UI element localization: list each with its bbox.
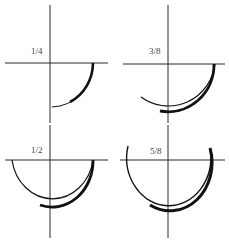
panel-half-circle: 1/2: [5, 125, 108, 238]
curved-needle-arc: [141, 64, 215, 106]
panel-label: 1/2: [31, 145, 43, 155]
panel-label: 3/8: [149, 46, 161, 56]
curved-needle-arc-thick: [40, 160, 93, 207]
needle-curvature-diagram: 1/4 3/8 1/2 5/8: [0, 0, 229, 249]
panel-label: 5/8: [150, 146, 162, 156]
panel-label: 1/4: [31, 46, 43, 56]
panel-three-eighths-circle: 3/8: [123, 5, 225, 123]
curved-needle-arc-thick: [150, 148, 212, 211]
panel-five-eighths-circle: 5/8: [120, 125, 225, 238]
curved-needle-arc-thick: [70, 63, 93, 102]
panel-quarter-circle: 1/4: [5, 5, 108, 123]
